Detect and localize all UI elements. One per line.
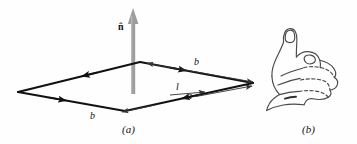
thumb-left-side bbox=[272, 43, 284, 77]
panel-b-caption: (b) bbox=[302, 124, 315, 135]
palm-heel-mark bbox=[285, 97, 296, 99]
palm-crease-lower bbox=[280, 91, 299, 94]
panel-a-caption: (a) bbox=[122, 124, 135, 135]
finger-crease-3 bbox=[299, 91, 329, 98]
palm-crease-upper bbox=[281, 68, 303, 76]
finger-crease-2 bbox=[301, 79, 330, 90]
index-fingernail bbox=[304, 55, 315, 64]
physics-figure: n̂ b l a b ( bbox=[0, 0, 357, 144]
hand-icon bbox=[267, 29, 338, 111]
index-knuckle-outline bbox=[296, 52, 320, 68]
palm-crease-mid bbox=[278, 78, 300, 85]
thumb-nail bbox=[285, 30, 295, 42]
finger-crease-1 bbox=[304, 67, 335, 78]
